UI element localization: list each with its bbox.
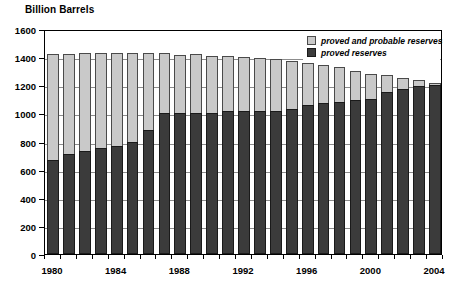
bar-proved	[302, 105, 314, 254]
x-tick-mark	[315, 255, 316, 259]
bar-group	[159, 29, 171, 254]
y-axis: 02004006008001000120014001600	[0, 0, 44, 291]
x-tick-mark	[251, 255, 252, 259]
x-axis: 1980198419881992199620002004	[0, 255, 451, 291]
x-tick-label: 2000	[360, 265, 381, 276]
bar-group	[318, 29, 330, 254]
y-tick-label: 1600	[0, 25, 36, 36]
x-tick-mark	[442, 255, 443, 259]
bar-group	[47, 29, 59, 254]
x-tick-label: 1984	[105, 265, 126, 276]
y-tick-label: 1000	[0, 109, 36, 120]
bar-group	[127, 29, 139, 254]
x-tick-mark	[140, 255, 141, 259]
bar-group	[79, 29, 91, 254]
y-tick-label: 800	[0, 137, 36, 148]
bar-group	[174, 29, 186, 254]
bar-group	[413, 29, 425, 254]
plot-area	[44, 30, 442, 255]
x-tick-mark	[299, 255, 300, 259]
bar-group	[302, 29, 314, 254]
bar-proved	[270, 111, 282, 254]
bar-proved	[127, 142, 139, 255]
bar-group	[143, 29, 155, 254]
legend-item-proved-and-probable: proved and probable reserves	[307, 36, 437, 46]
bar-group	[95, 29, 107, 254]
x-tick-mark	[92, 255, 93, 259]
x-tick-mark	[235, 255, 236, 259]
bar-proved	[286, 109, 298, 254]
bar-proved	[238, 111, 250, 254]
chart-legend: proved and probable reserves proved rese…	[303, 32, 440, 63]
bar-group	[397, 29, 409, 254]
bar-proved	[95, 148, 107, 254]
x-tick-label: 2004	[423, 265, 444, 276]
x-tick-mark	[378, 255, 379, 259]
x-tick-mark	[331, 255, 332, 259]
x-tick-mark	[362, 255, 363, 259]
bar-proved	[111, 146, 123, 254]
bar-proved	[397, 89, 409, 254]
x-tick-mark	[203, 255, 204, 259]
bar-group	[365, 29, 377, 254]
x-tick-mark	[283, 255, 284, 259]
chart-container: Billion Barrels 020040060080010001200140…	[0, 0, 451, 291]
bar-group	[222, 29, 234, 254]
x-tick-label: 1988	[169, 265, 190, 276]
bar-group	[238, 29, 250, 254]
x-tick-mark	[426, 255, 427, 259]
y-tick-label: 400	[0, 193, 36, 204]
x-tick-mark	[219, 255, 220, 259]
bar-proved	[318, 103, 330, 254]
bar-proved	[159, 113, 171, 254]
legend-item-proved: proved reserves	[307, 48, 437, 58]
x-tick-mark	[108, 255, 109, 259]
bar-proved	[79, 151, 91, 254]
x-tick-mark	[346, 255, 347, 259]
bar-proved	[254, 111, 266, 254]
bar-proved	[63, 154, 75, 254]
bar-group	[270, 29, 282, 254]
y-tick-label: 1400	[0, 53, 36, 64]
y-tick-label: 600	[0, 165, 36, 176]
bar-group	[190, 29, 202, 254]
x-tick-mark	[124, 255, 125, 259]
y-tick-label: 200	[0, 221, 36, 232]
bar-proved	[47, 160, 59, 254]
x-tick-mark	[394, 255, 395, 259]
dark-gray-swatch-icon	[307, 48, 316, 57]
bar-group	[350, 29, 362, 254]
x-tick-mark	[60, 255, 61, 259]
bar-proved	[143, 130, 155, 254]
bar-group	[254, 29, 266, 254]
legend-label-proved-and-probable: proved and probable reserves	[321, 36, 442, 46]
bar-proved	[174, 113, 186, 254]
bar-group	[286, 29, 298, 254]
x-tick-mark	[171, 255, 172, 259]
bar-proved	[365, 99, 377, 254]
bar-proved	[381, 92, 393, 254]
bar-group	[63, 29, 75, 254]
bar-group	[429, 29, 441, 254]
y-tick-label: 1200	[0, 81, 36, 92]
bar-proved	[222, 111, 234, 254]
bar-group	[381, 29, 393, 254]
x-tick-mark	[187, 255, 188, 259]
x-tick-label: 1980	[41, 265, 62, 276]
light-gray-swatch-icon	[307, 36, 316, 45]
x-tick-mark	[267, 255, 268, 259]
x-tick-mark	[410, 255, 411, 259]
x-tick-label: 1992	[232, 265, 253, 276]
bar-proved	[413, 86, 425, 254]
bar-proved	[350, 100, 362, 254]
bar-group	[206, 29, 218, 254]
legend-label-proved: proved reserves	[321, 48, 387, 58]
bar-proved	[190, 113, 202, 254]
bar-proved	[429, 85, 441, 254]
x-tick-label: 1996	[296, 265, 317, 276]
x-tick-mark	[76, 255, 77, 259]
bar-proved	[206, 113, 218, 254]
bar-group	[111, 29, 123, 254]
x-tick-mark	[44, 255, 45, 259]
bar-group	[334, 29, 346, 254]
